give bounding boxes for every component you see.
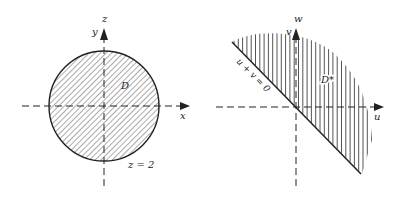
boundary-label: z = 2 <box>127 159 154 170</box>
left-panel: z y x D z = 2 <box>22 13 190 186</box>
region-d-label: D <box>120 80 129 91</box>
y-axis-arrow-icon <box>100 28 108 40</box>
figure: z y x D z = 2 w v u D* u + v = 0 <box>0 0 397 198</box>
u-axis-arrow-icon <box>374 103 384 111</box>
region-d-star <box>234 20 372 180</box>
z-axis-label: z <box>101 13 108 24</box>
line-label: u + v = 0 <box>235 56 273 94</box>
u-axis-label: u <box>374 111 380 122</box>
v-axis-label: v <box>286 26 292 37</box>
v-axis-arrow-icon <box>292 28 300 40</box>
region-d-star-label: D* <box>320 74 334 85</box>
w-axis-label: w <box>294 13 303 24</box>
right-panel: w v u D* u + v = 0 <box>216 13 384 186</box>
x-axis-label: x <box>180 110 186 121</box>
y-axis-label: y <box>91 26 98 37</box>
x-axis-arrow-icon <box>180 102 190 110</box>
